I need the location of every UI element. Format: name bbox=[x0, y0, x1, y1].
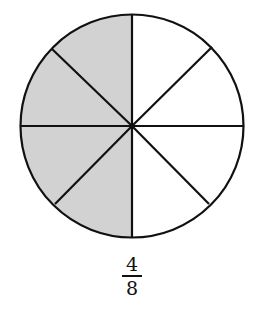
fraction-denominator: 8 bbox=[117, 278, 147, 298]
fraction-label: 4 8 bbox=[117, 254, 147, 298]
center-point bbox=[130, 124, 135, 129]
fraction-numerator: 4 bbox=[117, 254, 147, 274]
fraction-circle bbox=[0, 0, 254, 250]
